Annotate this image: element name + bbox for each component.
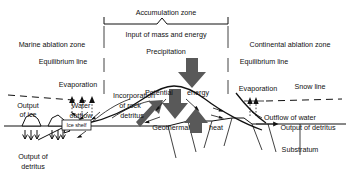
- equilibrium-line-left-label: Equilibrium line: [39, 57, 88, 66]
- evaporation-left-label: Evaporation: [59, 80, 97, 89]
- continental-ablation-zone-label: Continental ablation zone: [249, 40, 330, 49]
- snow-line-label: Snow line: [294, 82, 325, 91]
- outflow-of-water-label: Outflow of water: [264, 113, 317, 122]
- substratum-label: Substratum: [282, 145, 319, 154]
- geothermal-label: Geothermal: [152, 123, 190, 132]
- detritus-fall-arrows-left: [23, 130, 66, 140]
- marine-ablation-zone-label: Marine ablation zone: [19, 40, 86, 49]
- potential-label: Potential: [145, 88, 173, 97]
- accumulation-zone-bracket: [104, 17, 228, 24]
- equilibrium-line-right-label: Equilibrium line: [240, 57, 289, 66]
- output-of-detritus-right-label: Output of detritus: [280, 123, 336, 132]
- glacier-mass-balance-diagram: Accumulation zone Marine ablation zone I…: [0, 0, 346, 180]
- incorporation-label-line3: detritus: [120, 111, 144, 120]
- incorporation-label-line2: of rock: [119, 101, 141, 110]
- output-of-ice-label-line1: Output: [17, 101, 39, 110]
- ice-shelf-label: Ice shelf: [66, 122, 87, 128]
- accumulation-zone-label: Accumulation zone: [136, 8, 197, 17]
- heat-label: heat: [209, 123, 223, 132]
- snow-line-right: [266, 99, 342, 101]
- output-of-detritus-left-line1: Output of: [18, 152, 48, 161]
- water-outflow-label-line2: outflow: [70, 111, 94, 120]
- output-of-detritus-left-line2: detritus: [21, 162, 45, 171]
- evaporation-right-label: Evaporation: [239, 84, 277, 93]
- input-of-mass-and-energy-label: Input of mass and energy: [125, 30, 207, 39]
- precipitation-arrow: [178, 58, 206, 88]
- output-of-ice-label-line2: of ice: [19, 110, 36, 119]
- water-outflow-label-line1: Water: [72, 101, 92, 110]
- energy-label: energy: [187, 88, 209, 97]
- precipitation-label: Precipitation: [146, 47, 186, 56]
